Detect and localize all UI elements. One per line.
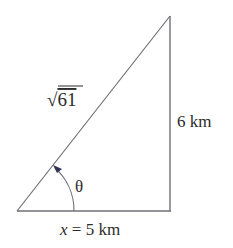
angle-label: θ	[75, 177, 83, 196]
angle-arc	[55, 168, 74, 211]
vertical-side-label: 6 km	[177, 112, 211, 131]
right-triangle-diagram: √61 6 km θ x = 5 km	[0, 0, 233, 248]
arrowhead-icon	[53, 165, 62, 173]
hypotenuse-label: √61	[47, 89, 76, 110]
base-label: x = 5 km	[59, 220, 120, 239]
hypotenuse-side	[17, 16, 170, 211]
